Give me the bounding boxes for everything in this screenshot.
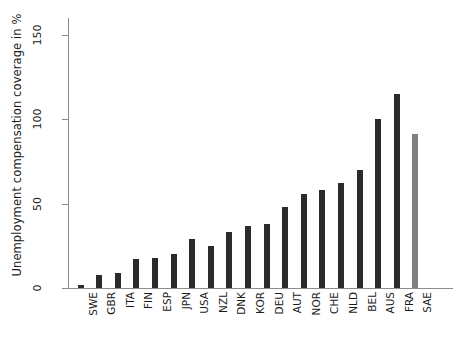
bar-esp <box>152 258 158 288</box>
x-tick-label-sae: SAE <box>421 292 434 336</box>
bar-fin <box>133 259 139 288</box>
x-tick-label-swe: SWE <box>87 292 100 336</box>
bar-sae <box>412 134 418 288</box>
bar-usa <box>189 239 195 288</box>
bar-nor <box>301 194 307 289</box>
bar-bel <box>357 170 363 288</box>
y-axis-title: Unemployment compensation coverage in % <box>6 0 28 290</box>
y-tick-label: 50 <box>31 184 45 224</box>
x-tick-label-kor: KOR <box>254 292 267 336</box>
x-tick-label-nzl: NZL <box>217 292 230 336</box>
x-tick-label-dnk: DNK <box>235 292 248 336</box>
y-tick-label: 150 <box>31 15 45 55</box>
bar-che <box>319 190 325 288</box>
bar-nzl <box>208 246 214 288</box>
x-tick-label-nor: NOR <box>310 292 323 336</box>
x-tick-label-jpn: JPN <box>180 292 193 336</box>
bar-ita <box>115 273 121 288</box>
y-tick-label: 0 <box>31 268 45 308</box>
x-tick-label-aus: AUS <box>384 292 397 336</box>
x-axis-line <box>68 288 453 289</box>
bar-gbr <box>96 275 102 289</box>
bar-deu <box>264 224 270 288</box>
bar-jpn <box>171 254 177 288</box>
x-tick-label-aut: AUT <box>291 292 304 336</box>
bar-fra <box>394 94 400 288</box>
x-tick-label-gbr: GBR <box>105 292 118 336</box>
bar-kor <box>245 226 251 288</box>
bar-aut <box>282 207 288 288</box>
bar-aus <box>375 119 381 288</box>
bar-swe <box>78 285 84 288</box>
bar-chart-figure: Unemployment compensation coverage in % … <box>0 0 455 345</box>
x-tick-label-deu: DEU <box>273 292 286 336</box>
bars-layer <box>68 18 453 288</box>
x-tick-label-fra: FRA <box>403 292 416 336</box>
x-tick-label-nld: NLD <box>347 292 360 336</box>
y-tick-mark <box>62 288 69 289</box>
x-tick-label-ita: ITA <box>124 292 137 336</box>
x-tick-label-bel: BEL <box>366 292 379 336</box>
bar-dnk <box>226 232 232 288</box>
x-tick-label-che: CHE <box>328 292 341 336</box>
x-tick-label-fin: FIN <box>142 292 155 336</box>
x-tick-label-usa: USA <box>198 292 211 336</box>
bar-nld <box>338 183 344 288</box>
y-tick-label: 100 <box>31 99 45 139</box>
x-tick-label-esp: ESP <box>161 292 174 336</box>
